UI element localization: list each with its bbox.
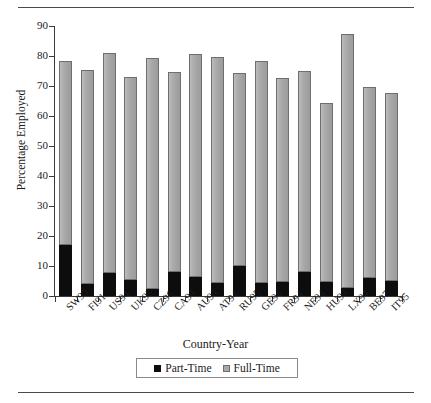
bar-segment-full-time[interactable] [320,103,333,282]
y-axis-tick [49,176,54,177]
bar-group[interactable] [146,26,159,296]
figure: 0102030405060708090 Percentage Employed … [0,0,431,403]
y-axis-tick [49,56,54,57]
x-axis-tick [55,297,56,302]
bar-segment-full-time[interactable] [59,61,72,245]
legend-item-part-time[interactable]: Part-Time [154,362,211,374]
y-axis-tick-label: 20 [22,230,48,241]
bar-group[interactable] [211,26,224,296]
y-axis-tick-label: 90 [22,20,48,31]
bar-segment-full-time[interactable] [363,87,376,278]
bar-group[interactable] [103,26,116,296]
bar-segment-full-time[interactable] [385,93,398,281]
bar-segment-full-time[interactable] [168,72,181,272]
legend-swatch-part-time-icon [154,365,161,372]
bar-group[interactable] [363,26,376,296]
bar-segment-full-time[interactable] [298,71,311,272]
bar-segment-part-time[interactable] [59,245,72,296]
bar-group[interactable] [124,26,137,296]
y-axis-title: Percentage Employed [15,70,27,210]
bar-group[interactable] [341,26,354,296]
legend-label-full-time: Full-Time [234,362,280,374]
legend-swatch-full-time-icon [223,365,230,372]
bar-segment-full-time[interactable] [81,70,94,284]
bar-segment-full-time[interactable] [146,58,159,289]
bar-group[interactable] [59,26,72,296]
y-axis-tick [49,236,54,237]
bar-segment-full-time[interactable] [255,61,268,283]
bar-segment-full-time[interactable] [103,53,116,272]
bar-group[interactable] [385,26,398,296]
legend-label-part-time: Part-Time [165,362,211,374]
bar-segment-part-time[interactable] [103,273,116,296]
bar-group[interactable] [298,26,311,296]
bar-group[interactable] [81,26,94,296]
y-axis-tick [49,296,54,297]
bar-group[interactable] [168,26,181,296]
top-rule [18,7,414,8]
y-axis-tick [49,26,54,27]
bar-group[interactable] [320,26,333,296]
bar-segment-full-time[interactable] [211,57,224,283]
y-axis-tick [49,146,54,147]
y-axis-tick [49,116,54,117]
bar-group[interactable] [189,26,202,296]
bar-group[interactable] [233,26,246,296]
bar-segment-full-time[interactable] [341,34,354,287]
bar-segment-full-time[interactable] [276,78,289,282]
y-axis-tick [49,266,54,267]
bar-segment-full-time[interactable] [189,54,202,276]
chart-legend: Part-Time Full-Time [136,358,298,378]
plot-area [55,26,402,296]
bar-segment-full-time[interactable] [233,73,246,267]
y-axis-tick [49,86,54,87]
y-axis-tick-label: 0 [22,290,48,301]
x-axis-title: Country-Year [0,337,431,352]
bar-segment-full-time[interactable] [124,77,137,280]
bar-group[interactable] [255,26,268,296]
legend-item-full-time[interactable]: Full-Time [223,362,280,374]
y-axis-tick-label: 10 [22,260,48,271]
bottom-rule [18,392,414,393]
y-axis-tick [49,206,54,207]
y-axis-tick-label: 80 [22,50,48,61]
bar-group[interactable] [276,26,289,296]
